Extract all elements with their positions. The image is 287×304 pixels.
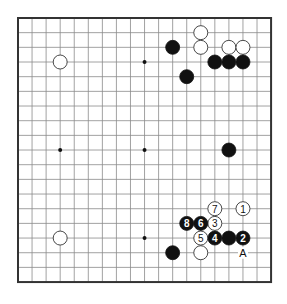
black-stone: 6 <box>194 216 208 230</box>
black-stone <box>166 40 180 54</box>
black-stone-disc <box>208 55 222 69</box>
white-stone <box>53 231 67 245</box>
move-number: 3 <box>212 218 218 229</box>
move-number: 5 <box>198 233 204 244</box>
move-number: 2 <box>240 233 246 244</box>
black-stone <box>222 231 236 245</box>
black-stone-disc <box>166 246 180 260</box>
move-number: 6 <box>198 218 204 229</box>
white-stone <box>222 40 236 54</box>
black-stone-disc <box>222 143 236 157</box>
white-stone-disc <box>53 231 67 245</box>
white-stone: 1 <box>236 202 250 216</box>
black-stone-disc <box>222 55 236 69</box>
black-stone <box>180 70 194 84</box>
white-stone <box>236 40 250 54</box>
white-stone <box>194 26 208 40</box>
black-stone: 2 <box>236 231 250 245</box>
black-stone-disc <box>180 70 194 84</box>
black-stone-disc <box>236 55 250 69</box>
star-point <box>143 60 147 64</box>
black-stone <box>166 246 180 260</box>
go-board: 12345678 A <box>0 0 287 304</box>
point-marker-label: A <box>239 247 247 259</box>
move-number: 1 <box>240 204 246 215</box>
white-stone-disc <box>194 26 208 40</box>
white-stone: 3 <box>208 216 222 230</box>
white-stone: 7 <box>208 202 222 216</box>
black-stone-disc <box>166 40 180 54</box>
markers-layer: A <box>238 247 248 260</box>
star-point <box>58 148 62 152</box>
white-stone-disc <box>194 246 208 260</box>
black-stone <box>222 55 236 69</box>
black-stone <box>208 55 222 69</box>
white-stone <box>194 40 208 54</box>
black-stone: 4 <box>208 231 222 245</box>
white-stone-disc <box>194 40 208 54</box>
white-stone-disc <box>53 55 67 69</box>
white-stone-disc <box>222 40 236 54</box>
white-stone <box>194 246 208 260</box>
black-stone <box>222 143 236 157</box>
black-stone: 8 <box>180 216 194 230</box>
white-stone <box>53 55 67 69</box>
move-number: 8 <box>184 218 190 229</box>
white-stone: 5 <box>194 231 208 245</box>
black-stone <box>236 55 250 69</box>
move-number: 4 <box>212 233 218 244</box>
white-stone-disc <box>236 40 250 54</box>
star-point <box>143 148 147 152</box>
move-number: 7 <box>212 204 218 215</box>
black-stone-disc <box>222 231 236 245</box>
star-point <box>143 236 147 240</box>
